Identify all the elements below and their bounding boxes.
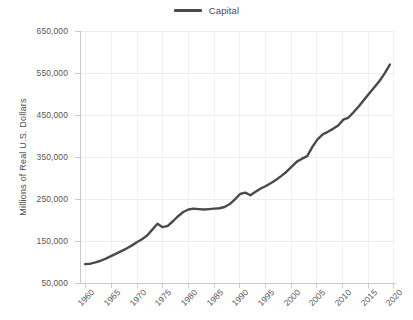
x-tick-label-1995: 1995	[249, 288, 276, 315]
chart-legend: Capital	[0, 6, 413, 16]
chart-container: Capital Millions of Real U.S. Dollars	[0, 0, 413, 320]
x-tick-label-1985: 1985	[198, 288, 225, 315]
x-tick-mark-1970	[137, 284, 138, 288]
series-line-capital	[80, 31, 395, 283]
y-tick-mark-650000	[75, 31, 80, 32]
x-tick-mark-1980	[188, 284, 189, 288]
x-tick-label-2010: 2010	[326, 288, 353, 315]
x-tick-mark-2010	[342, 284, 343, 288]
x-tick-mark-1990	[239, 284, 240, 288]
y-tick-mark-250000	[75, 199, 80, 200]
x-tick-label-1960: 1960	[69, 288, 96, 315]
y-tick-mark-150000	[75, 241, 80, 242]
x-tick-mark-2015	[368, 284, 369, 288]
x-tick-label-2015: 2015	[352, 288, 379, 315]
y-tick-label-450000: 450,000	[8, 111, 68, 120]
x-tick-mark-1960	[85, 284, 86, 288]
y-tick-label-250000: 250,000	[8, 195, 68, 204]
x-tick-mark-2005	[316, 284, 317, 288]
y-tick-label-150000: 150,000	[8, 237, 68, 246]
legend-line-swatch-capital	[174, 9, 202, 12]
y-axis-line	[80, 31, 81, 284]
x-tick-label-1975: 1975	[146, 288, 173, 315]
x-axis-line	[80, 283, 396, 284]
x-tick-label-1980: 1980	[172, 288, 199, 315]
y-tick-label-350000: 350,000	[8, 153, 68, 162]
x-tick-label-2020: 2020	[377, 288, 404, 315]
x-tick-mark-1965	[111, 284, 112, 288]
x-tick-mark-1975	[162, 284, 163, 288]
y-tick-mark-450000	[75, 115, 80, 116]
x-tick-label-1970: 1970	[121, 288, 148, 315]
x-tick-label-2005: 2005	[300, 288, 327, 315]
y-tick-mark-550000	[75, 73, 80, 74]
legend-label-capital: Capital	[209, 6, 240, 16]
x-tick-mark-1995	[265, 284, 266, 288]
y-tick-label-550000: 550,000	[8, 69, 68, 78]
x-tick-mark-2020	[393, 284, 394, 288]
x-tick-label-2000: 2000	[275, 288, 302, 315]
x-tick-mark-2000	[291, 284, 292, 288]
y-tick-label-650000: 650,000	[8, 27, 68, 36]
x-tick-mark-1985	[214, 284, 215, 288]
x-tick-label-1990: 1990	[223, 288, 250, 315]
y-tick-mark-50000	[75, 283, 80, 284]
y-tick-label-50000: 50,000	[8, 279, 68, 288]
y-tick-mark-350000	[75, 157, 80, 158]
x-tick-label-1965: 1965	[95, 288, 122, 315]
